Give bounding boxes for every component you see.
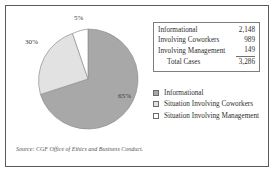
pie-label-management-percent: 5%	[74, 14, 84, 22]
legend-item-coworkers: Situation Involving Coworkers	[153, 99, 259, 111]
table-row-total: Total Cases 3,286	[158, 57, 255, 68]
figure-frame: 5% 30% 65% Informational 2,148 Involving…	[5, 5, 269, 167]
stats-table: Informational 2,148 Involving Coworkers …	[158, 25, 255, 68]
stats-total-label: Total Cases	[158, 57, 236, 68]
pie-label-coworkers-percent: 30%	[25, 38, 38, 46]
stats-row-value: 989	[236, 35, 255, 45]
legend-swatch-icon	[153, 113, 159, 119]
stats-row-label: Involving Coworkers	[158, 35, 236, 45]
chart-legend: Informational Situation Involving Cowork…	[153, 87, 259, 122]
stats-row-value: 2,148	[236, 25, 255, 35]
legend-item-label: Situation Involving Coworkers	[164, 100, 253, 108]
pie-chart-svg	[14, 12, 154, 134]
pie-label-informational-percent: 65%	[118, 92, 131, 100]
legend-swatch-icon	[153, 90, 159, 96]
legend-swatch-icon	[153, 101, 159, 107]
legend-item-informational: Informational	[153, 87, 259, 99]
legend-item-management: Situation Involving Management	[153, 110, 259, 122]
stats-row-label: Involving Management	[158, 46, 236, 57]
stats-table-box: Informational 2,148 Involving Coworkers …	[153, 22, 260, 72]
stats-total-value: 3,286	[236, 57, 255, 68]
table-row: Informational 2,148	[158, 25, 255, 35]
table-row: Involving Coworkers 989	[158, 35, 255, 45]
stats-row-label: Informational	[158, 25, 236, 35]
source-note: Source: CGF Office of Ethics and Busines…	[16, 146, 143, 152]
stats-row-value: 149	[236, 46, 255, 57]
legend-item-label: Situation Involving Management	[164, 112, 259, 120]
table-row: Involving Management 149	[158, 46, 255, 57]
pie-chart: 5% 30% 65%	[14, 12, 154, 134]
legend-item-label: Informational	[164, 89, 204, 97]
